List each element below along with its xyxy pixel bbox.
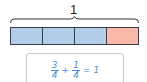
denominator: 4 <box>52 71 58 80</box>
bar-segment-1 <box>11 28 43 44</box>
fraction-bar <box>10 27 139 45</box>
denominator: 4 <box>73 71 79 80</box>
bar-segment-2 <box>43 28 75 44</box>
equation: 3 4 + 1 4 = 1 <box>51 61 99 80</box>
fraction-one-quarter: 1 4 <box>72 61 80 80</box>
fraction-three-quarters: 3 4 <box>51 61 59 80</box>
brace-icon <box>10 16 139 24</box>
bar-segment-3 <box>75 28 107 44</box>
equals-sign: = <box>83 65 91 75</box>
equation-box: 3 4 + 1 4 = 1 <box>26 53 124 82</box>
whole-label: 1 <box>0 2 147 17</box>
numerator: 3 <box>51 61 59 71</box>
bar-segment-4 <box>107 28 138 44</box>
plus-sign: + <box>62 65 70 75</box>
result: 1 <box>93 65 99 75</box>
numerator: 1 <box>72 61 80 71</box>
